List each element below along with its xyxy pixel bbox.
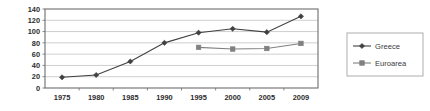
y-axis-tick-label: 100: [28, 27, 40, 36]
y-axis-tick-label: 140: [28, 5, 40, 14]
y-axis-labels: 140120100806040200: [28, 5, 40, 93]
y-axis-tick-label: 0: [36, 84, 40, 93]
data-point-marker: [360, 61, 365, 66]
chart-canvas: 140120100806040200 197519801985199019952…: [0, 0, 430, 111]
x-axis-tick-label: 2009: [293, 93, 309, 102]
data-point-marker: [128, 59, 133, 64]
legend-box: [347, 33, 423, 76]
y-axis-tick-label: 80: [32, 39, 40, 48]
legend-label: Greece: [375, 42, 400, 51]
x-axis-tick-label: 2000: [224, 93, 240, 102]
data-point-marker: [299, 41, 304, 46]
data-point-marker: [59, 75, 64, 80]
line-chart: 140120100806040200 197519801985199019952…: [0, 0, 430, 111]
chart-legend: GreeceEuroarea: [347, 33, 423, 76]
x-axis-tick-label: 2005: [259, 93, 275, 102]
data-point-marker: [298, 14, 303, 19]
x-axis-tick-label: 1980: [88, 93, 104, 102]
x-axis-tick-label: 1990: [156, 93, 172, 102]
gridlines: [45, 20, 318, 76]
series-line: [199, 43, 301, 49]
x-axis-tick-label: 1995: [190, 93, 206, 102]
data-point-marker: [196, 45, 201, 50]
data-point-marker: [264, 30, 269, 35]
y-axis-tick-label: 120: [28, 16, 40, 25]
data-point-marker: [230, 47, 235, 52]
data-point-marker: [265, 46, 270, 51]
y-axis-tick-label: 20: [32, 72, 40, 81]
series-layer: [59, 14, 303, 80]
x-axis-tick-label: 1975: [54, 93, 70, 102]
x-axis-labels: 19751980198519901995200020052009: [54, 93, 309, 102]
y-axis-tick-label: 60: [32, 50, 40, 59]
data-point-marker: [162, 40, 167, 45]
x-axis-tick-label: 1985: [122, 93, 138, 102]
legend-label: Euroarea: [375, 59, 407, 68]
y-axis-tick-label: 40: [32, 61, 40, 70]
data-point-marker: [196, 30, 201, 35]
data-point-marker: [230, 26, 235, 31]
